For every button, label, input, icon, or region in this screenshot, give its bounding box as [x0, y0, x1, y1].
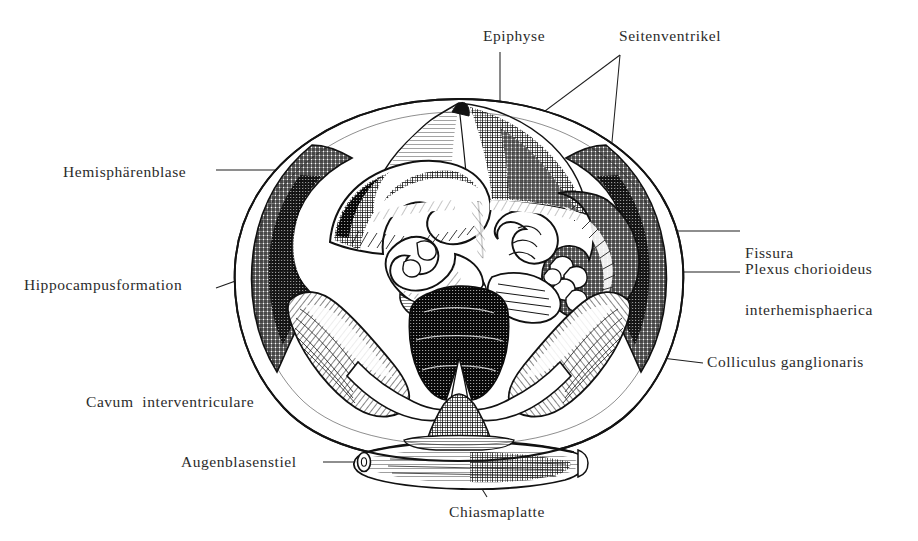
augenblasenstiel-lumen	[361, 458, 366, 466]
label-hemisphaerenblase: Hemisphärenblase	[63, 162, 186, 182]
label-seitenventrikel: Seitenventrikel	[619, 26, 721, 46]
label-fissura-interhemisphaerica: Fissura interhemisphaerica	[745, 206, 873, 357]
label-colliculus-ganglionaris: Colliculus ganglionaris	[707, 352, 864, 372]
left-ventricle-lobules	[417, 241, 436, 260]
ventral-base-shelf	[404, 436, 514, 451]
left-ventricle-lobule-2	[403, 260, 421, 277]
label-augenblasenstiel: Augenblasenstiel	[181, 452, 297, 472]
label-chiasmaplatte: Chiasmaplatte	[449, 502, 545, 522]
label-fissura-line2: interhemisphaerica	[745, 301, 873, 320]
label-cavum-interventriculare: Cavum interventriculare	[86, 392, 254, 412]
label-epiphyse: Epiphyse	[483, 26, 545, 46]
anatomical-figure: Epiphyse Seitenventrikel Hemisphärenblas…	[0, 0, 918, 541]
label-plexus-chorioideus: Plexus chorioideus	[745, 259, 872, 279]
label-hippocampusformation: Hippocampusformation	[24, 275, 182, 295]
